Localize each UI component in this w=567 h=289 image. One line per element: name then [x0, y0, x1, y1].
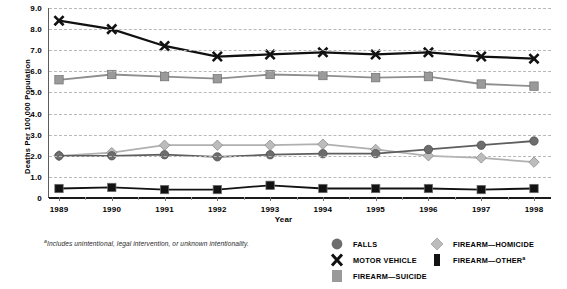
y-axis-tick-label: 2.0 — [8, 151, 42, 160]
x-axis-tick-label: 1993 — [261, 205, 280, 214]
x-axis-tick-label: 1991 — [155, 205, 174, 214]
series-layer — [49, 8, 552, 198]
diamond-data-point — [265, 140, 275, 150]
y-axis-tick-label: 6.0 — [8, 67, 42, 76]
x-axis-minor-tick — [508, 197, 509, 200]
gridline — [49, 135, 551, 136]
legend-marker-glyph — [332, 270, 342, 282]
square-data-point — [530, 82, 538, 90]
square-data-point — [266, 181, 274, 189]
gridline — [49, 29, 551, 30]
x-axis-tick-mark — [481, 197, 482, 201]
gridline — [49, 198, 551, 199]
y-axis-tick-label: 3.0 — [8, 130, 42, 139]
y-axis-tick-label: 7.0 — [8, 46, 42, 55]
square-data-point — [55, 184, 63, 192]
legend-item[interactable]: FIREARM—OTHERa — [430, 253, 526, 267]
chart-legend: FALLSMOTOR VEHICLEFIREARM—SUICIDEFIREARM… — [330, 237, 567, 287]
circle-data-point — [266, 151, 274, 159]
legend-marker-glyph — [434, 254, 440, 266]
series-firearm-homicide — [54, 139, 539, 167]
x-axis-tick-mark — [270, 197, 271, 201]
square-data-point — [371, 73, 379, 81]
diamond-data-point — [159, 140, 169, 150]
y-axis-tick-label: 5.0 — [8, 88, 42, 97]
series-firearm-other — [55, 181, 538, 194]
x-axis-tick-mark — [376, 197, 377, 201]
x-axis-minor-tick — [191, 197, 192, 200]
footnote-text: Includes unintentional, legal interventi… — [47, 240, 249, 247]
x-axis-minor-tick — [349, 197, 350, 200]
x-axis-tick-label: 1995 — [366, 205, 385, 214]
x-axis-tick-label: 1992 — [208, 205, 227, 214]
gridline — [49, 156, 551, 157]
diamond-data-point — [318, 139, 328, 149]
legend-item[interactable]: FIREARM—HOMICIDE — [430, 237, 534, 251]
legend-item-label: FIREARM—OTHERa — [453, 255, 526, 265]
legend-item[interactable]: MOTOR VEHICLE — [330, 253, 417, 267]
x-axis-tick-mark — [112, 197, 113, 201]
x-marker-icon — [330, 253, 346, 267]
legend-item-label: FIREARM—SUICIDE — [353, 272, 427, 281]
circle-marker-icon — [330, 237, 346, 251]
x-axis-tick-mark — [217, 197, 218, 201]
x-axis-tick-label: 1997 — [472, 205, 491, 214]
gridline — [49, 50, 551, 51]
square-data-point — [55, 76, 63, 84]
square-data-point — [213, 185, 221, 193]
plot-panel: 1989199019911992199319941995199619971998 — [48, 8, 551, 198]
x-axis-tick-mark — [165, 197, 166, 201]
y-axis-tick-label: 4.0 — [8, 109, 42, 118]
circle-data-point — [213, 153, 221, 161]
series-line — [59, 185, 534, 189]
gridline — [49, 177, 551, 178]
square-data-point — [477, 80, 485, 88]
gridline — [49, 92, 551, 93]
gridline — [49, 8, 551, 9]
legend-item[interactable]: FIREARM—SUICIDE — [330, 269, 427, 283]
y-axis-tick-label: 9.0 — [8, 4, 42, 13]
x-axis-tick-label: 1990 — [102, 205, 121, 214]
legend-item[interactable]: FALLS — [330, 237, 377, 251]
square-data-point — [424, 184, 432, 192]
x-axis-minor-tick — [402, 197, 403, 200]
circle-data-point — [424, 145, 432, 153]
series-line — [59, 21, 534, 59]
square-dark-marker-icon — [430, 253, 446, 267]
plot-area: Deaths Per 100,000 Population 01.02.03.0… — [0, 0, 567, 235]
chart-figure: Deaths Per 100,000 Population 01.02.03.0… — [0, 0, 567, 289]
square-data-point — [160, 185, 168, 193]
x-axis-tick-label: 1996 — [419, 205, 438, 214]
series-motor-vehicle — [54, 16, 538, 63]
circle-data-point — [160, 151, 168, 159]
square-data-point — [213, 75, 221, 83]
square-data-point — [160, 72, 168, 80]
legend-marker-glyph — [431, 238, 443, 250]
diamond-data-point — [476, 153, 486, 163]
legend-marker-glyph — [332, 255, 342, 266]
x-axis-minor-tick — [138, 197, 139, 200]
x-axis-minor-tick — [244, 197, 245, 200]
square-data-point — [108, 183, 116, 191]
diamond-data-point — [212, 140, 222, 150]
circle-data-point — [530, 137, 538, 145]
y-axis-tick-label: 8.0 — [8, 25, 42, 34]
legend-item-footnote-marker: a — [522, 255, 525, 261]
x-axis-tick-label: 1994 — [314, 205, 333, 214]
diamond-marker-icon — [430, 237, 446, 251]
legend-item-label: FALLS — [353, 240, 377, 249]
legend-item-label: MOTOR VEHICLE — [353, 256, 417, 265]
y-axis-tick-label: 0 — [8, 194, 42, 203]
square-data-point — [371, 184, 379, 192]
series-line — [59, 75, 534, 87]
footnote: aIncludes unintentional, legal intervent… — [44, 238, 249, 247]
x-axis-title: Year — [0, 215, 567, 224]
gridline — [49, 114, 551, 115]
series-firearm-suicide — [55, 70, 538, 90]
x-axis-tick-label: 1989 — [50, 205, 69, 214]
circle-data-point — [477, 141, 485, 149]
square-data-point — [477, 185, 485, 193]
gridline — [49, 71, 551, 72]
x-axis-tick-mark — [59, 197, 60, 201]
legend-marker-glyph — [332, 239, 343, 250]
